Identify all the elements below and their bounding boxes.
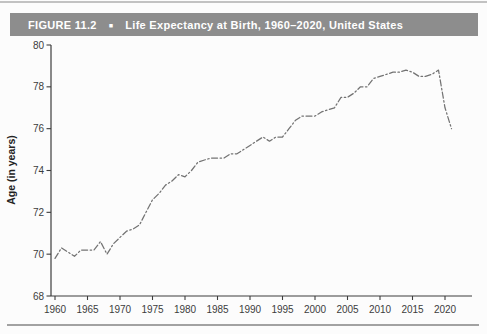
x-tick-label: 2005	[336, 304, 359, 315]
x-tick-label: 1980	[174, 304, 197, 315]
y-axis: 68707274767880	[33, 40, 51, 302]
y-tick-label: 70	[33, 249, 45, 260]
y-tick-label: 76	[33, 123, 45, 134]
x-tick-label: 2015	[401, 304, 424, 315]
chart-canvas: 68707274767880 1960196519701975198019851…	[0, 0, 487, 334]
x-tick-label: 2010	[369, 304, 392, 315]
y-tick-label: 68	[33, 291, 45, 302]
x-tick-label: 1965	[76, 304, 99, 315]
x-tick-label: 1985	[206, 304, 229, 315]
data-line	[55, 70, 452, 258]
bottom-rule	[7, 324, 479, 326]
y-tick-label: 78	[33, 81, 45, 92]
y-tick-label: 80	[33, 40, 45, 51]
x-tick-label: 2000	[304, 304, 327, 315]
x-tick-label: 1990	[239, 304, 262, 315]
x-tick-label: 1960	[44, 304, 67, 315]
x-axis: 1960196519701975198019851990199520002005…	[44, 296, 472, 315]
y-axis-title: Age (in years)	[5, 135, 17, 204]
y-tick-label: 74	[33, 165, 45, 176]
x-tick-label: 1970	[109, 304, 132, 315]
y-tick-label: 72	[33, 207, 45, 218]
x-tick-label: 2020	[434, 304, 457, 315]
x-tick-label: 1995	[271, 304, 294, 315]
x-tick-label: 1975	[141, 304, 164, 315]
